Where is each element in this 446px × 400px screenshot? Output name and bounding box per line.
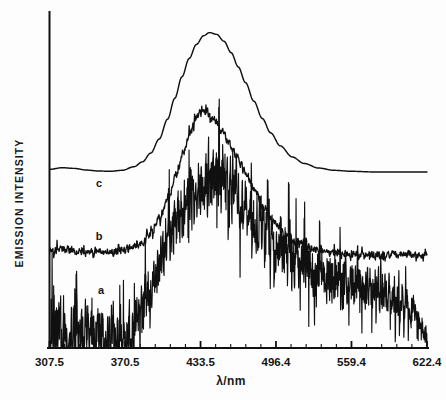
figure-root: 307.5370.5433.5496.4559.4622.4 c b a EMI… xyxy=(0,0,446,400)
curve-label-c: c xyxy=(96,177,102,189)
x-axis-tick-label: 433.5 xyxy=(186,356,215,368)
curve-label-a: a xyxy=(98,284,105,296)
x-axis-tick-label: 307.5 xyxy=(35,356,64,368)
x-axis-tick-label: 496.4 xyxy=(262,356,291,368)
spectra-group xyxy=(50,33,428,347)
y-axis-title: EMISSION INTENSITY xyxy=(13,139,25,268)
spectrum-curve-c xyxy=(50,33,428,172)
curve-label-b: b xyxy=(96,230,103,242)
x-axis-tick-label: 622.4 xyxy=(413,356,442,368)
x-axis-tick-label: 370.5 xyxy=(111,356,140,368)
x-axis-tick-labels: 307.5370.5433.5496.4559.4622.4 xyxy=(35,356,442,368)
emission-spectrum-chart: 307.5370.5433.5496.4559.4622.4 c b a EMI… xyxy=(0,0,446,400)
x-axis-tick-label: 559.4 xyxy=(337,356,366,368)
spectrum-curve-a xyxy=(50,99,428,347)
x-axis-title: λ/nm xyxy=(216,374,246,388)
